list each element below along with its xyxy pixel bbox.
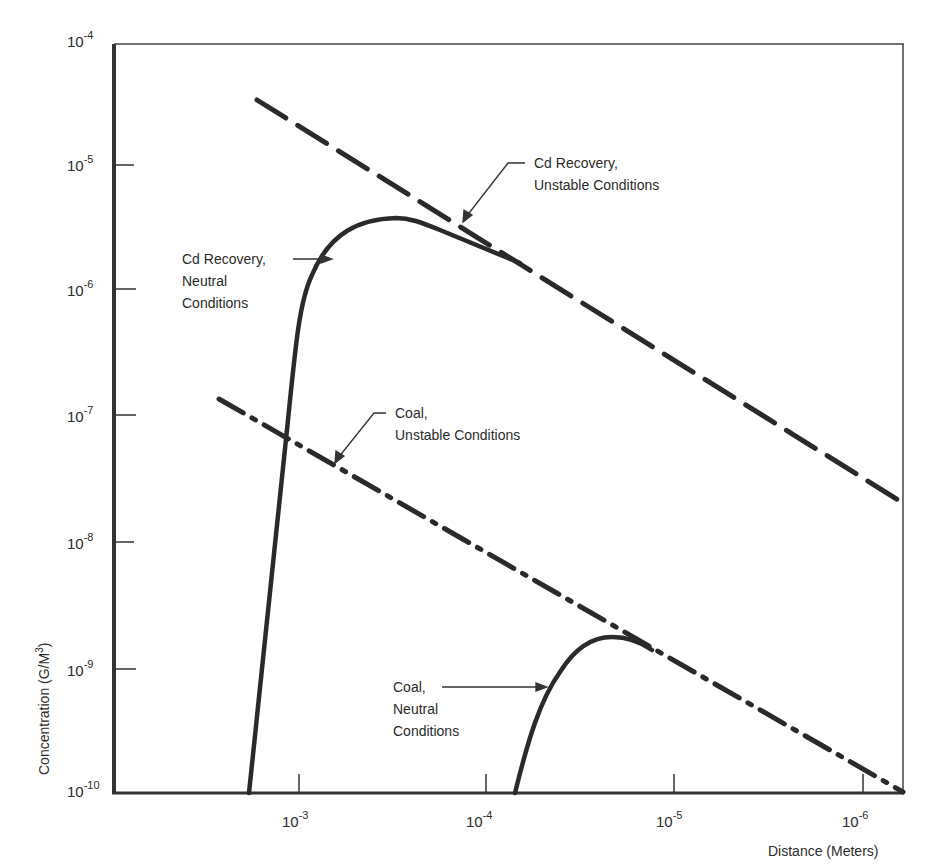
y-axis-label: Concentration (G/M3) xyxy=(34,643,52,775)
y-tick-label: 10-5 xyxy=(67,155,93,174)
series-coal-unstable xyxy=(219,399,903,792)
y-tick-label: 10-7 xyxy=(67,406,93,425)
x-tick-label: 10-6 xyxy=(842,811,868,830)
x-tick-label: 10-3 xyxy=(282,811,308,830)
y-tick-label: 10-8 xyxy=(67,533,93,552)
annotation-coal-neutral: Coal, Neutral Conditions xyxy=(393,676,459,742)
y-ticks xyxy=(114,165,136,669)
y-tick-label: 10-6 xyxy=(67,280,93,299)
x-tick-label: 10-5 xyxy=(656,811,682,830)
x-ticks xyxy=(299,774,863,793)
x-axis-label: Distance (Meters) xyxy=(768,843,878,859)
annotation-cd-neutral: Cd Recovery, Neutral Conditions xyxy=(182,248,266,314)
series-coal-neutral xyxy=(515,637,652,793)
y-tick-label: 10-9 xyxy=(67,660,93,679)
annotation-cd-unstable: Cd Recovery, Unstable Conditions xyxy=(534,152,659,196)
annotation-coal-unstable: Coal, Unstable Conditions xyxy=(395,402,520,446)
y-tick-label: 10-10 xyxy=(67,781,100,800)
y-tick-label: 10-4 xyxy=(67,31,93,50)
x-tick-label: 10-4 xyxy=(466,811,492,830)
series-cd-neutral xyxy=(249,218,520,793)
